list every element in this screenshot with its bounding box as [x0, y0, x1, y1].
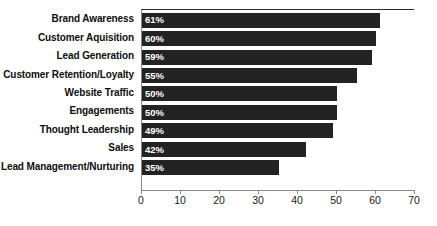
bar: 59% — [142, 50, 372, 65]
x-axis-line — [141, 190, 414, 191]
bar: 50% — [142, 105, 337, 120]
bar-value-label: 59% — [142, 52, 164, 62]
x-axis-tick-labels: 010203040506070 — [141, 195, 414, 211]
bar-row: 42% — [142, 140, 414, 158]
bar-row: 60% — [142, 29, 414, 47]
bar-value-label: 49% — [142, 126, 164, 136]
x-axis-tick-label: 10 — [174, 195, 186, 206]
category-label: Sales — [0, 139, 138, 157]
category-label: Thought Leadership — [0, 121, 138, 139]
bar-row: 61% — [142, 11, 414, 29]
plot-area: 61%60%59%55%50%50%49%42%35% — [141, 9, 414, 190]
bar-value-label: 50% — [142, 108, 164, 118]
category-label: Customer Retention/Loyalty — [0, 65, 138, 83]
bar-row: 35% — [142, 159, 414, 177]
x-axis-tick-label: 0 — [138, 195, 144, 206]
category-axis-labels: Brand AwarenessCustomer AquisitionLead G… — [0, 10, 138, 176]
x-axis-tick-label: 70 — [408, 195, 420, 206]
bar: 61% — [142, 13, 380, 28]
category-label: Engagements — [0, 102, 138, 120]
bar-value-label: 55% — [142, 71, 164, 81]
bar-row: 50% — [142, 85, 414, 103]
bar-row: 50% — [142, 103, 414, 121]
bar-chart: Brand AwarenessCustomer AquisitionLead G… — [0, 0, 437, 226]
x-axis-tick-label: 50 — [330, 195, 342, 206]
bar-value-label: 61% — [142, 15, 164, 25]
bar: 55% — [142, 68, 357, 83]
bar-row: 55% — [142, 66, 414, 84]
category-label: Customer Aquisition — [0, 28, 138, 46]
category-label: Lead Generation — [0, 47, 138, 65]
bar: 35% — [142, 160, 279, 175]
x-axis-tick-label: 20 — [213, 195, 225, 206]
bar-value-label: 50% — [142, 89, 164, 99]
category-label: Website Traffic — [0, 84, 138, 102]
category-label: Brand Awareness — [0, 10, 138, 28]
bar-row: 59% — [142, 48, 414, 66]
bar-series: 61%60%59%55%50%50%49%42%35% — [142, 11, 414, 177]
bar-row: 49% — [142, 122, 414, 140]
bar: 49% — [142, 123, 333, 138]
bar-value-label: 35% — [142, 163, 164, 173]
category-label: Lead Management/Nurturing — [0, 158, 138, 176]
bar: 42% — [142, 142, 306, 157]
x-axis-tick-label: 40 — [291, 195, 303, 206]
bar-value-label: 60% — [142, 34, 164, 44]
bar: 50% — [142, 86, 337, 101]
x-axis-tick-label: 60 — [369, 195, 381, 206]
bar: 60% — [142, 31, 376, 46]
bar-value-label: 42% — [142, 145, 164, 155]
x-axis-tick-label: 30 — [252, 195, 264, 206]
